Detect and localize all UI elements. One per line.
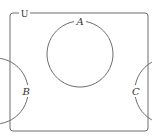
venn-diagram-canvas: U A B C	[0, 0, 152, 137]
set-a-label: A	[76, 16, 84, 27]
set-b-label: B	[22, 86, 30, 97]
venn-diagram: U A B C	[0, 0, 152, 137]
set-a-circle	[47, 22, 113, 87]
set-c-label: C	[132, 86, 140, 97]
universe-label: U	[21, 8, 29, 19]
universe-frame	[10, 13, 148, 131]
